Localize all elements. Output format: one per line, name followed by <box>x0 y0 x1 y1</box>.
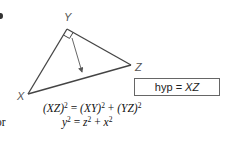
triangle <box>28 29 131 94</box>
equation-line-2: ory2 = z2 + x2 <box>0 116 112 128</box>
eq1-lhs: (XZ) <box>43 102 64 114</box>
hyp-prefix: hyp = <box>155 81 182 93</box>
hyp-value: XZ <box>185 81 199 93</box>
eq1-term2: (YZ) <box>117 102 137 114</box>
eq1-plus: + <box>108 102 115 114</box>
side-yz <box>67 29 131 65</box>
vertex-label-y: Y <box>64 12 71 23</box>
eq1-term2-exp: 2 <box>138 101 142 110</box>
eq1-lhs-exp: 2 <box>64 101 68 110</box>
hypotenuse-label-box: hyp = XZ <box>134 78 220 96</box>
equation-line-1: (XZ)2 = (XY)2 + (YZ)2 <box>43 102 141 114</box>
eq2-equals: = <box>74 116 81 128</box>
eq1-term1: (XY) <box>80 102 101 114</box>
eq2-term2-exp: 2 <box>109 115 113 124</box>
vertex-label-x: X <box>17 91 24 102</box>
eq2-prefix: or <box>0 116 62 128</box>
eq2-lhs-exp: 2 <box>67 115 71 124</box>
eq1-term1-exp: 2 <box>101 101 105 110</box>
eq2-term1-exp: 2 <box>88 115 92 124</box>
arrow-icon <box>72 38 82 72</box>
eq2-plus: + <box>94 116 101 128</box>
eq1-equals: = <box>71 102 78 114</box>
vertex-label-z: Z <box>135 62 142 73</box>
